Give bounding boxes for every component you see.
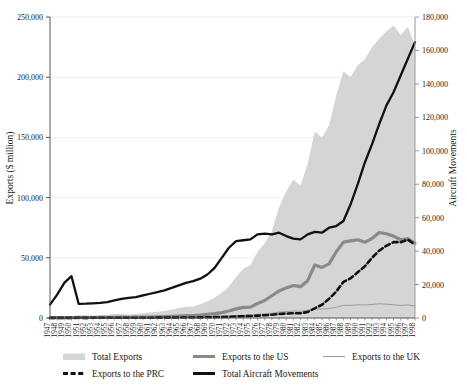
exports-aircraft-movements-chart: 050,000100,000150,000200,000250,000 020,… [0,0,467,386]
left-tick-label: 150,000 [17,133,43,142]
right-tick-label: 80,000 [422,180,444,189]
left-axis-title: Exports ($ million) [5,132,16,205]
right-tick-label: 140,000 [422,80,448,89]
chart-figure: 050,000100,000150,000200,000250,000 020,… [0,0,467,386]
right-tick-label: 60,000 [422,214,444,223]
right-tick-label: 160,000 [422,46,448,55]
right-tick-label: 120,000 [422,113,448,122]
legend-label: Total Aircraft Movements [222,369,319,379]
left-tick-label: 0 [39,314,43,323]
left-tick-label: 250,000 [17,13,43,22]
right-axis-title: Aircraft Movements [448,129,458,207]
right-tick-label: 100,000 [422,147,448,156]
legend-label: Exports to the UK [352,352,420,362]
x-tick-label: 1998 [409,323,417,338]
legend-label: Total Exports [92,352,143,362]
legend-swatch-total-exports [63,354,85,361]
right-tick-label: 0 [422,314,426,323]
left-tick-label: 200,000 [17,73,43,82]
legend-label: Exports to the US [222,352,288,362]
legend-label: Exports to the PRC [92,369,164,379]
right-tick-label: 40,000 [422,247,444,256]
left-tick-label: 50,000 [21,254,43,263]
right-tick-label: 20,000 [422,281,444,290]
left-tick-label: 100,000 [17,194,43,203]
right-tick-label: 180,000 [422,13,448,22]
